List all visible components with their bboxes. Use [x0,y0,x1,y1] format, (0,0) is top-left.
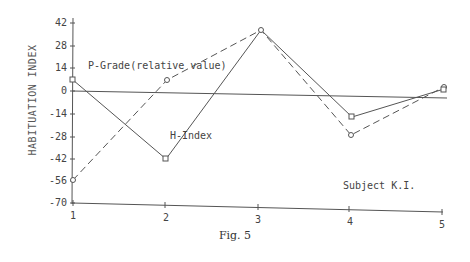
y-tick-label: 0 [61,85,67,96]
x-tick-labels: 1 2 3 4 5 [70,210,445,230]
series-p-grade-line [73,30,444,180]
y-tick-labels: 42 28 14 0 -14 -28 -42 -56 -70 [49,17,67,208]
h-index-annotation: H-Index [170,130,212,141]
y-tick-label: 14 [55,62,67,73]
y-tick-label: -70 [49,197,67,208]
subject-annotation: Subject K.I. [343,180,415,191]
x-ticks [73,200,442,215]
y-tick-label: -28 [49,131,67,142]
x-tick-label: 2 [163,212,169,223]
y-tick-label: -56 [49,175,67,186]
x-tick-label: 4 [347,216,353,227]
y-tick-label: 28 [55,40,67,51]
habituation-chart: 42 28 14 0 -14 -28 -42 -56 -70 1 2 3 4 5… [0,0,470,262]
y-tick-label: 42 [55,17,67,28]
zero-line [72,91,447,98]
x-tick-label: 1 [70,210,76,221]
y-axis-label: HABITUATION INDEX [27,45,38,156]
x-tick-label: 3 [255,214,261,225]
p-grade-annotation: P-Grade(relative value) [88,60,226,71]
figure-caption: Fig. 5 [0,229,470,242]
y-tick-label: -14 [49,108,67,119]
y-tick-label: -42 [49,153,67,164]
h-index-markers [70,77,446,161]
